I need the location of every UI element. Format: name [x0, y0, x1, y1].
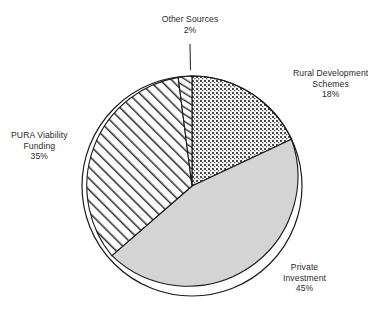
slice-label-rural-development-line1: Rural Development — [293, 68, 368, 79]
slice-label-private-investment-line2: Investment — [283, 273, 326, 284]
slice-label-pura-viability-funding: PURA Viability Funding 35% — [11, 130, 68, 162]
slice-label-private-investment-value: 45% — [283, 283, 326, 294]
slice-label-pura-viability-value: 35% — [11, 151, 68, 162]
leader-line-other-sources — [190, 44, 191, 70]
slice-label-other-sources: Other Sources 2% — [162, 14, 219, 35]
slice-label-pura-viability-line1: PURA Viability — [11, 130, 68, 141]
slice-label-other-sources-value: 2% — [162, 25, 219, 36]
slice-label-rural-development-line2: Schemes — [293, 79, 368, 90]
slice-label-private-investment: Private Investment 45% — [283, 262, 326, 294]
slice-label-private-investment-line1: Private — [283, 262, 326, 273]
slice-label-rural-development-schemes: Rural Development Schemes 18% — [293, 68, 368, 100]
slice-label-pura-viability-line2: Funding — [11, 141, 68, 152]
slice-label-other-sources-name: Other Sources — [162, 14, 219, 25]
slice-label-rural-development-value: 18% — [293, 89, 368, 100]
